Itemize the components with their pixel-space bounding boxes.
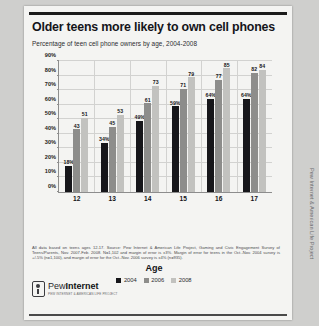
logo-text: PewInternet PEW INTERNET & AMERICAN LIFE… xyxy=(48,282,118,296)
y-axis-tick-label: 20% xyxy=(45,154,56,160)
y-axis-tick-label: 80% xyxy=(45,67,56,73)
legend-label: 2008 xyxy=(179,277,192,283)
bar-value-label: 53 xyxy=(117,108,123,114)
bar-chart: 0%10%20%30%40%50%60%70%80%90%18%43511234… xyxy=(32,55,276,207)
bar-value-label: 43 xyxy=(74,123,80,129)
x-axis-tick-label: 16 xyxy=(215,195,222,202)
page-subtitle: Percentage of teen cell phone owners by … xyxy=(32,40,284,47)
bar-2008-age-15: 79 xyxy=(188,77,195,192)
bar-2004-age-15: 59% xyxy=(172,106,179,192)
pew-logo-icon xyxy=(32,281,45,297)
pew-internet-logo: PewInternet PEW INTERNET & AMERICAN LIFE… xyxy=(32,281,118,297)
bar-2008-age-17: 84 xyxy=(259,70,266,192)
y-axis-tick-label: 40% xyxy=(45,125,56,131)
legend-swatch-icon xyxy=(171,278,176,283)
bar-group: 64%828417 xyxy=(237,61,272,192)
y-axis-tick-label: 50% xyxy=(45,110,56,116)
y-axis-tick-label: 90% xyxy=(45,52,56,58)
bar-value-label: 82 xyxy=(251,66,257,72)
legend-swatch-icon xyxy=(144,278,149,283)
x-axis-label: Age xyxy=(32,263,276,273)
bar-value-label: 84 xyxy=(259,63,265,69)
legend-item-2006: 2006 xyxy=(144,277,164,283)
x-axis-tick-label: 12 xyxy=(73,195,80,202)
y-axis-tick-label: 60% xyxy=(45,96,56,102)
bottom-rule-divider xyxy=(29,314,287,316)
x-axis-tick-label: 17 xyxy=(251,195,258,202)
logo-word-light: Pew xyxy=(48,281,66,291)
bar-2008-age-16: 85 xyxy=(223,68,230,192)
logo-tagline: PEW INTERNET & AMERICAN LIFE PROJECT xyxy=(48,293,118,296)
y-axis-tick-label: 70% xyxy=(45,81,56,87)
legend-item-2008: 2008 xyxy=(171,277,191,283)
logo-word-bold: Internet xyxy=(66,281,99,291)
bar-2006-age-14: 61 xyxy=(144,103,151,192)
scanned-report-page: Older teens more likely to own cell phon… xyxy=(0,0,319,326)
legend-label: 2006 xyxy=(151,277,164,283)
bar-value-label: 79 xyxy=(188,71,194,77)
bar-2006-age-13: 45 xyxy=(109,127,116,193)
bar-value-label: 73 xyxy=(153,79,159,85)
bar-2008-age-14: 73 xyxy=(152,86,159,192)
x-axis-tick-label: 13 xyxy=(109,195,116,202)
bar-value-label: 45 xyxy=(109,120,115,126)
bar-2004-age-16: 64% xyxy=(207,99,214,192)
y-axis-tick-label: 0% xyxy=(48,183,56,189)
chart-plot-area: 0%10%20%30%40%50%60%70%80%90%18%43511234… xyxy=(58,61,272,193)
top-rule-divider xyxy=(29,12,287,15)
bar-group: 49%617314 xyxy=(130,61,165,192)
x-axis-tick-label: 14 xyxy=(144,195,151,202)
legend-item-2004: 2004 xyxy=(116,277,136,283)
sidebar-vertical-text: Pew Internet & American Life Project xyxy=(309,168,315,259)
bar-value-label: 51 xyxy=(82,111,88,117)
bar-group: 18%435112 xyxy=(59,61,94,192)
bar-2004-age-13: 34% xyxy=(101,143,108,192)
bar-2006-age-17: 82 xyxy=(251,73,258,192)
bar-2004-age-12: 18% xyxy=(65,166,72,192)
bar-group: 59%717915 xyxy=(166,61,201,192)
bar-2004-age-14: 49% xyxy=(136,121,143,192)
page-title: Older teens more likely to own cell phon… xyxy=(32,21,284,34)
legend-label: 2004 xyxy=(124,277,137,283)
bar-2008-age-12: 51 xyxy=(81,118,88,192)
bar-2004-age-17: 64% xyxy=(243,99,250,192)
bar-value-label: 85 xyxy=(224,62,230,68)
y-axis-tick-label: 10% xyxy=(45,168,56,174)
bar-value-label: 71 xyxy=(180,82,186,88)
bar-2008-age-13: 53 xyxy=(117,115,124,192)
bar-2006-age-12: 43 xyxy=(73,129,80,192)
bar-group: 34%455313 xyxy=(94,61,129,192)
logo-wordmark: PewInternet xyxy=(48,282,118,291)
x-axis-tick-label: 15 xyxy=(180,195,187,202)
bar-2006-age-15: 71 xyxy=(180,89,187,192)
chart-footnote: All data based on teens ages 12-17. Sour… xyxy=(32,245,280,260)
bar-value-label: 61 xyxy=(145,97,151,103)
bar-group: 64%778516 xyxy=(201,61,236,192)
bar-2006-age-16: 77 xyxy=(215,80,222,192)
y-axis-tick-label: 30% xyxy=(45,139,56,145)
bar-value-label: 77 xyxy=(216,73,222,79)
